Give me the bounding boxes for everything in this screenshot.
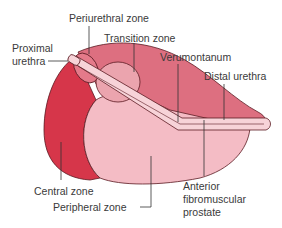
label-verumontanum: Verumontanum	[160, 51, 231, 63]
prostate-diagram: Periurethral zone Transition zone Proxim…	[0, 0, 282, 228]
label-proximal-urethra-2: urethra	[12, 55, 45, 67]
label-anterior-3: prostate	[183, 206, 221, 218]
label-periurethral-zone: Periurethral zone	[69, 12, 149, 24]
label-proximal-urethra-1: Proximal	[12, 42, 53, 54]
label-anterior-1: Anterior	[183, 180, 220, 192]
label-anterior-2: fibromuscular	[183, 193, 246, 205]
label-transition-zone: Transition zone	[104, 32, 175, 44]
label-distal-urethra: Distal urethra	[204, 70, 266, 82]
label-central-zone: Central zone	[34, 185, 94, 197]
label-peripheral-zone: Peripheral zone	[53, 201, 127, 213]
